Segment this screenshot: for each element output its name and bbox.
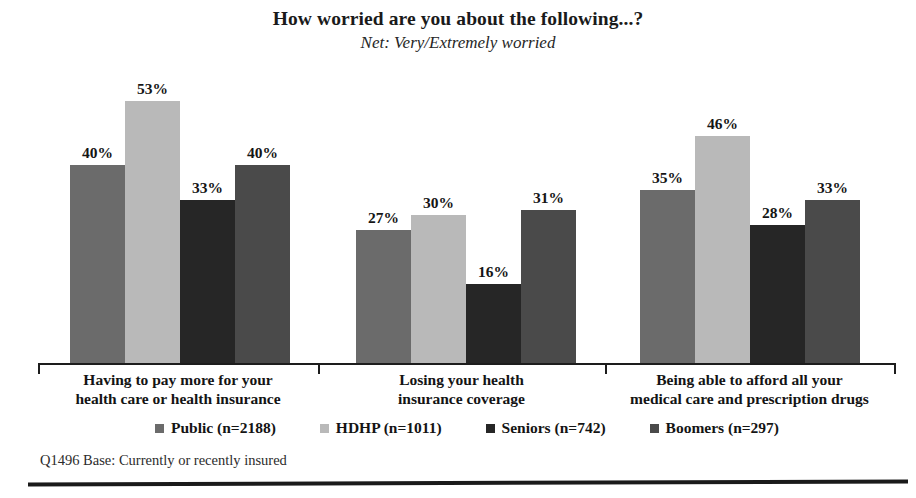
legend-item[interactable]: Boomers (n=297)	[650, 419, 779, 437]
bottom-divider	[28, 480, 908, 487]
bar-value-label: 31%	[533, 190, 564, 206]
bar-rect[interactable]	[125, 101, 180, 363]
bar-group-bars: 40%53%33%40%	[68, 60, 292, 363]
bar-column[interactable]: 16%	[466, 60, 521, 363]
bar-column[interactable]: 40%	[235, 60, 290, 363]
category-label-line: Losing your health	[318, 370, 605, 389]
bar-column[interactable]: 53%	[125, 60, 180, 363]
category-label-line: medical care and prescription drugs	[605, 389, 894, 408]
bar-group-bars: 27%30%16%31%	[354, 60, 578, 363]
bar-value-label: 53%	[137, 81, 168, 97]
bar-value-label: 28%	[762, 205, 793, 221]
bar-value-label: 35%	[652, 170, 683, 186]
bar-rect[interactable]	[695, 136, 750, 363]
bar-value-label: 46%	[707, 116, 738, 132]
footnote: Q1496 Base: Currently or recently insure…	[40, 452, 287, 469]
bar-column[interactable]: 35%	[640, 60, 695, 363]
legend-swatch-icon	[486, 424, 495, 433]
category-label-line: health care or health insurance	[38, 389, 318, 408]
bar-column[interactable]: 30%	[411, 60, 466, 363]
bar-value-label: 40%	[82, 145, 113, 161]
page-title: How worried are you about the following.…	[0, 8, 916, 30]
category-label: Losing your healthinsurance coverage	[318, 370, 605, 408]
bar-group: 40%53%33%40%	[68, 60, 292, 363]
bar-group: 35%46%28%33%	[638, 60, 862, 363]
bar-rect[interactable]	[235, 165, 290, 363]
legend-item[interactable]: Seniors (n=742)	[486, 419, 606, 437]
bar-value-label: 33%	[192, 180, 223, 196]
bar-column[interactable]: 33%	[180, 60, 235, 363]
bar-rect[interactable]	[640, 190, 695, 363]
bar-column[interactable]: 46%	[695, 60, 750, 363]
category-label: Being able to afford all yourmedical car…	[605, 370, 894, 408]
bar-rect[interactable]	[356, 230, 411, 363]
legend-swatch-icon	[650, 424, 659, 433]
bar-column[interactable]: 31%	[521, 60, 576, 363]
legend-label: Seniors (n=742)	[502, 419, 606, 437]
bar-group: 27%30%16%31%	[354, 60, 578, 363]
legend-item[interactable]: HDHP (n=1011)	[320, 419, 442, 437]
bar-rect[interactable]	[70, 165, 125, 363]
bar-rect[interactable]	[411, 215, 466, 363]
bar-rect[interactable]	[805, 200, 860, 363]
legend-swatch-icon	[320, 424, 329, 433]
legend-label: HDHP (n=1011)	[336, 419, 442, 437]
chart-plot-area: 40%53%33%40%27%30%16%31%35%46%28%33%	[38, 60, 896, 363]
bar-column[interactable]: 28%	[750, 60, 805, 363]
bar-column[interactable]: 27%	[356, 60, 411, 363]
bar-value-label: 40%	[247, 145, 278, 161]
x-axis-line	[38, 363, 896, 365]
category-label-line: Having to pay more for your	[38, 370, 318, 389]
bar-rect[interactable]	[180, 200, 235, 363]
bar-group-bars: 35%46%28%33%	[638, 60, 862, 363]
legend-label: Boomers (n=297)	[666, 419, 779, 437]
legend-label: Public (n=2188)	[171, 419, 276, 437]
bar-value-label: 16%	[478, 264, 509, 280]
chart-legend: Public (n=2188)HDHP (n=1011)Seniors (n=7…	[38, 419, 896, 437]
legend-item[interactable]: Public (n=2188)	[155, 419, 276, 437]
bar-rect[interactable]	[521, 210, 576, 363]
bar-column[interactable]: 40%	[70, 60, 125, 363]
chart-subtitle: Net: Very/Extremely worried	[0, 33, 916, 53]
bar-value-label: 27%	[368, 210, 399, 226]
bar-column[interactable]: 33%	[805, 60, 860, 363]
bar-value-label: 33%	[817, 180, 848, 196]
bar-value-label: 30%	[423, 195, 454, 211]
legend-swatch-icon	[155, 424, 164, 433]
x-axis-tick	[894, 363, 896, 374]
bar-rect[interactable]	[750, 225, 805, 363]
bar-rect[interactable]	[466, 284, 521, 363]
category-label: Having to pay more for yourhealth care o…	[38, 370, 318, 408]
category-label-line: Being able to afford all your	[605, 370, 894, 389]
category-label-line: insurance coverage	[318, 389, 605, 408]
